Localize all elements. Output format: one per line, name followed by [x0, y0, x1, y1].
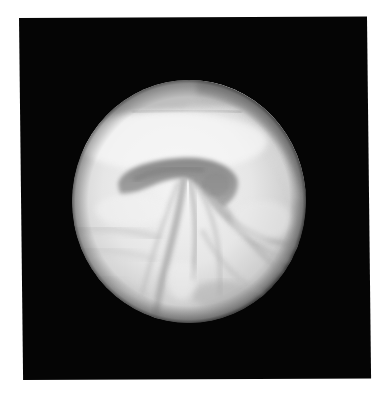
planet-disc — [72, 80, 306, 323]
planet-disc-graphic — [72, 80, 306, 323]
